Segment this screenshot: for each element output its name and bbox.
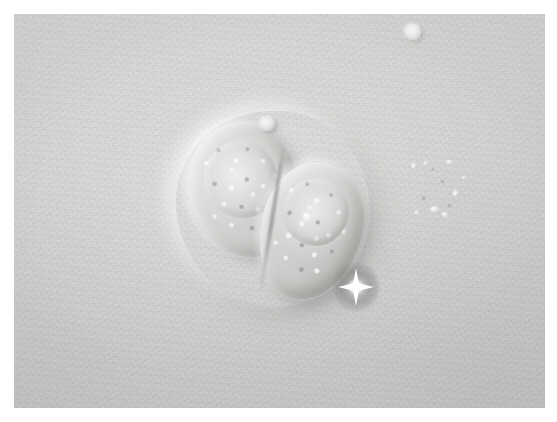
- debris-particle: [447, 203, 453, 209]
- debris-particle: [439, 179, 445, 185]
- specimen-layer: [14, 14, 545, 408]
- star-crystal: [333, 263, 379, 311]
- cell-right-bright-vacuole: [301, 212, 312, 223]
- debris-particle: [440, 211, 448, 219]
- debris-particle: [423, 160, 428, 166]
- debris-particle: [414, 209, 419, 215]
- debris-particle: [430, 205, 440, 213]
- debris-particle: [445, 159, 452, 165]
- debris-particle: [412, 162, 416, 169]
- cell-right-nucleus-region: [276, 171, 356, 252]
- micrograph-image: [14, 14, 545, 408]
- cell-left-bleb: [260, 117, 275, 131]
- debris-particle: [431, 168, 436, 172]
- debris-particle: [462, 175, 467, 180]
- debris-particle: [421, 194, 428, 201]
- figure-page: [0, 0, 557, 422]
- debris-particle: [453, 189, 459, 196]
- bubble: [405, 24, 421, 40]
- star-crystal-core: [349, 280, 363, 294]
